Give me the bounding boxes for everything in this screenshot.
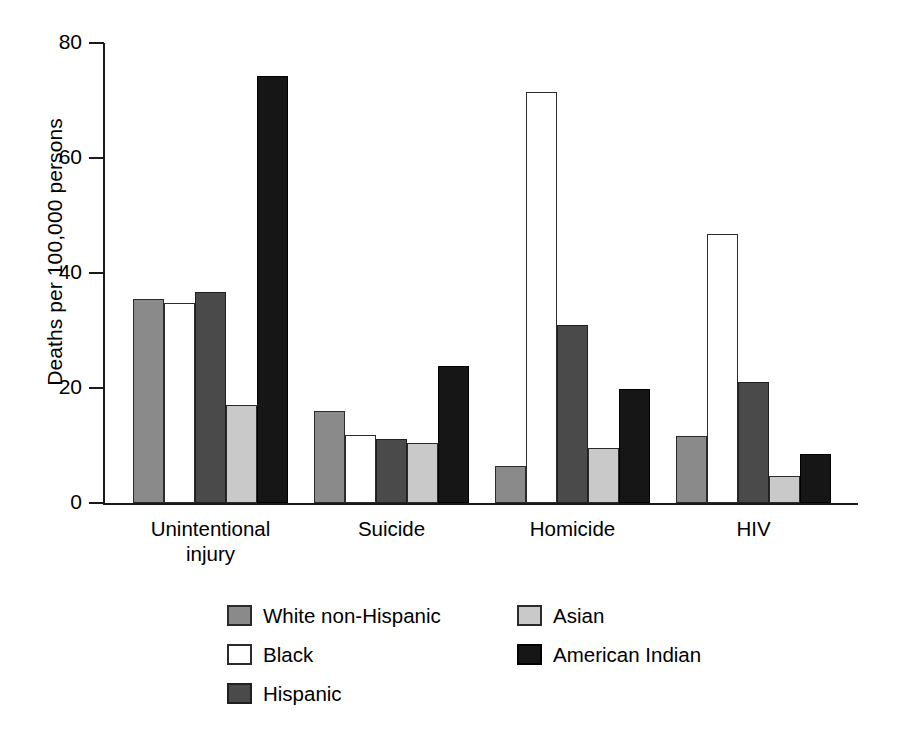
y-axis-tick-20 [89,387,104,389]
bar-group-hiv [676,43,831,503]
x-axis-label-line: injury [93,541,328,566]
bar-chart-figure: Deaths per 100,000 persons 020406080 Uni… [0,0,897,730]
y-axis-title: Deaths per 100,000 persons [43,32,67,472]
legend-item-white-non-hispanic[interactable]: White non-Hispanic [227,596,527,635]
legend-item-label: Asian [553,605,604,626]
y-axis-tick-label-wrap: 0 [18,491,82,513]
bar-hispanic [195,292,226,503]
bar-american-indian [800,454,831,503]
legend-item-label: American Indian [553,644,701,665]
y-axis-tick-label-wrap: 60 [18,146,82,168]
legend-item-american-indian[interactable]: American Indian [517,635,787,674]
legend-item-label: White non-Hispanic [263,605,441,626]
y-axis-tick-label: 20 [22,376,82,397]
y-axis-tick-label: 80 [22,31,82,52]
y-axis-tick-label-wrap: 80 [18,31,82,53]
x-axis-label-hiv: HIV [636,516,871,541]
plot-area [103,43,858,503]
y-axis-tick-40 [89,272,104,274]
legend-swatch-black [227,644,252,665]
x-axis-label-line: HIV [636,516,871,541]
bar-black [707,234,738,503]
bar-white-non-hispanic [495,466,526,503]
y-axis-tick-label-wrap: 20 [18,376,82,398]
y-axis-tick-label: 40 [22,261,82,282]
bar-asian [769,476,800,503]
bar-asian [588,448,619,503]
legend-column-left: White non-HispanicBlackHispanic [227,596,527,713]
legend-item-label: Hispanic [263,683,342,704]
legend-item-label: Black [263,644,313,665]
bar-hispanic [738,382,769,503]
y-axis-tick-label: 60 [22,146,82,167]
bar-hispanic [557,325,588,503]
bar-group-suicide [314,43,469,503]
legend-swatch-asian [517,605,542,626]
bar-american-indian [257,76,288,503]
bar-black [164,303,195,503]
bar-white-non-hispanic [133,299,164,503]
legend-item-hispanic[interactable]: Hispanic [227,674,527,713]
legend-swatch-american-indian [517,644,542,665]
y-axis-tick-label: 0 [22,491,82,512]
x-axis-line [103,503,858,505]
bar-hispanic [376,439,407,503]
y-axis-tick-label-wrap: 40 [18,261,82,283]
bar-asian [226,405,257,503]
bar-black [526,92,557,503]
legend: White non-HispanicBlackHispanic AsianAme… [227,596,787,716]
y-axis-tick-80 [89,42,104,44]
bar-american-indian [619,389,650,503]
legend-item-asian[interactable]: Asian [517,596,787,635]
legend-item-black[interactable]: Black [227,635,527,674]
bar-group-homicide [495,43,650,503]
y-axis-tick-0 [89,502,104,504]
bar-asian [407,443,438,503]
legend-column-right: AsianAmerican Indian [517,596,787,674]
bar-american-indian [438,366,469,503]
bar-white-non-hispanic [314,411,345,503]
bar-white-non-hispanic [676,436,707,503]
bar-black [345,435,376,503]
y-axis-tick-60 [89,157,104,159]
legend-swatch-white-non-hispanic [227,605,252,626]
legend-swatch-hispanic [227,683,252,704]
bar-group-unintentional-injury [133,43,288,503]
